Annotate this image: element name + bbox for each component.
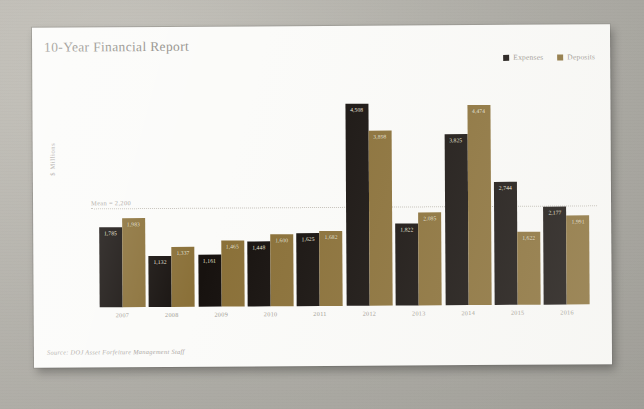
bar-value-label: 1,785 <box>99 230 122 236</box>
bar-value-label: 1,448 <box>247 244 270 250</box>
bar-value-label: 4,474 <box>467 108 490 114</box>
bar-group: 1,1611,465 <box>195 82 246 306</box>
bar-group: 1,1321,337 <box>146 83 197 307</box>
x-tick-2011: 2011 <box>295 310 344 324</box>
x-tick-2009: 2009 <box>197 310 246 324</box>
bar-value-label: 1,465 <box>221 244 244 250</box>
bar-value-label: 4,508 <box>345 107 368 113</box>
bar-value-label: 1,682 <box>320 234 343 240</box>
report-card: 10-Year Financial Report Expenses Deposi… <box>32 24 612 368</box>
bar-group: 1,8222,085 <box>393 81 444 305</box>
bar-expenses[interactable]: 4,508 <box>345 104 369 306</box>
x-axis-ticks: 2007200820092010201120122013201420152016 <box>92 308 598 325</box>
bar-group: 1,7851,983 <box>96 83 147 307</box>
bar-rect: 1,161 <box>198 255 221 307</box>
x-tick-2013: 2013 <box>394 309 443 323</box>
bar-rect: 1,600 <box>270 235 293 307</box>
bar-group: 2,1771,991 <box>541 80 592 304</box>
bar-expenses[interactable]: 1,161 <box>198 255 221 307</box>
bar-deposits[interactable]: 1,600 <box>270 235 293 307</box>
bar-expenses[interactable]: 1,448 <box>247 241 270 306</box>
bar-group: 1,4481,600 <box>245 82 296 306</box>
bar-group: 2,7441,622 <box>492 81 543 305</box>
bar-expenses[interactable]: 1,822 <box>395 224 418 306</box>
source-note: Source: DOJ Asset Forfeiture Management … <box>47 348 185 356</box>
bar-deposits[interactable]: 1,337 <box>171 247 194 307</box>
bar-deposits[interactable]: 1,622 <box>517 232 540 305</box>
legend-item-expenses: Expenses <box>503 53 543 62</box>
plot-area: Mean = 2,200 1,7851,9831,1321,3371,1611,… <box>90 80 597 307</box>
bar-deposits[interactable]: 1,682 <box>320 231 343 306</box>
bar-expenses[interactable]: 1,625 <box>297 233 320 306</box>
bar-rect: 1,337 <box>171 247 194 307</box>
x-tick-2014: 2014 <box>444 309 493 323</box>
x-tick-2016: 2016 <box>542 308 591 322</box>
bar-group: 4,5083,898 <box>343 82 394 306</box>
bar-expenses[interactable]: 2,177 <box>543 207 567 305</box>
bar-value-label: 2,744 <box>494 185 517 191</box>
bar-value-label: 2,085 <box>418 215 441 221</box>
bar-expenses[interactable]: 1,785 <box>99 227 122 307</box>
bar-rect: 1,983 <box>122 218 146 307</box>
bar-value-label: 2,177 <box>543 210 566 216</box>
legend-label-deposits: Deposits <box>567 52 595 61</box>
y-axis-label: $ Millions <box>49 143 56 176</box>
bar-deposits[interactable]: 1,465 <box>221 241 244 307</box>
bar-value-label: 1,991 <box>567 218 590 224</box>
bar-rect: 2,744 <box>494 182 518 305</box>
bar-expenses[interactable]: 1,132 <box>148 256 171 307</box>
x-tick-2012: 2012 <box>345 310 394 324</box>
bar-value-label: 1,983 <box>122 221 145 227</box>
bar-rect: 1,991 <box>566 215 590 304</box>
bar-group: 1,6251,682 <box>294 82 345 306</box>
bar-rect: 1,682 <box>320 231 343 306</box>
bar-rect: 2,177 <box>543 207 567 305</box>
bar-rect: 1,625 <box>297 233 320 306</box>
bar-deposits[interactable]: 4,474 <box>467 105 491 306</box>
bar-group: 3,8254,474 <box>442 81 493 305</box>
bar-value-label: 1,822 <box>395 227 418 233</box>
legend-label-expenses: Expenses <box>513 53 543 62</box>
page-title: 10-Year Financial Report <box>44 39 189 56</box>
x-tick-2008: 2008 <box>147 311 196 325</box>
bar-rect: 1,785 <box>99 227 122 307</box>
bar-deposits[interactable]: 3,898 <box>368 131 392 306</box>
bar-rect: 2,085 <box>418 212 442 306</box>
x-tick-2010: 2010 <box>246 310 295 324</box>
bar-rect: 4,474 <box>467 105 491 306</box>
bar-value-label: 1,132 <box>148 259 171 265</box>
bar-deposits[interactable]: 1,991 <box>566 215 590 304</box>
x-tick-2007: 2007 <box>98 311 147 325</box>
bar-value-label: 1,600 <box>270 238 293 244</box>
legend-item-deposits: Deposits <box>557 52 595 61</box>
bar-rect: 1,132 <box>148 256 171 307</box>
bar-expenses[interactable]: 3,825 <box>444 134 468 305</box>
bar-expenses[interactable]: 2,744 <box>494 182 518 305</box>
legend-swatch-deposits <box>557 54 563 60</box>
bar-deposits[interactable]: 1,983 <box>122 218 146 307</box>
bar-value-label: 3,898 <box>368 134 391 140</box>
bar-value-label: 1,161 <box>198 258 221 264</box>
bar-rect: 1,622 <box>517 232 540 305</box>
bar-value-label: 3,825 <box>444 137 467 143</box>
bar-rect: 1,822 <box>395 224 418 306</box>
bar-rect: 1,448 <box>247 241 270 306</box>
bar-groups: 1,7851,9831,1321,3371,1611,4651,4481,600… <box>90 80 597 307</box>
chart-legend: Expenses Deposits <box>503 52 595 62</box>
bar-value-label: 1,625 <box>297 236 320 242</box>
legend-swatch-expenses <box>503 54 509 60</box>
bar-rect: 1,465 <box>221 241 244 307</box>
bar-value-label: 1,622 <box>517 235 540 241</box>
bar-rect: 3,825 <box>444 134 468 305</box>
x-tick-2015: 2015 <box>493 309 542 323</box>
bar-value-label: 1,337 <box>171 250 194 256</box>
bar-deposits[interactable]: 2,085 <box>418 212 442 306</box>
bar-rect: 4,508 <box>345 104 369 306</box>
bar-rect: 3,898 <box>368 131 392 306</box>
